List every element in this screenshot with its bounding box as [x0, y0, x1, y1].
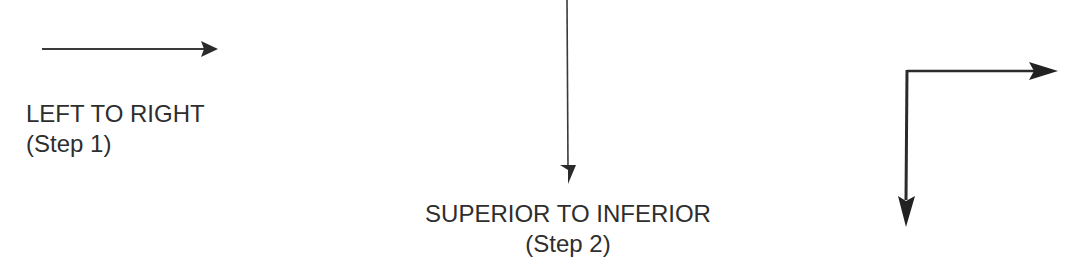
- step-2-title: SUPERIOR TO INFERIOR: [368, 199, 768, 229]
- step-1-title: LEFT TO RIGHT: [26, 99, 205, 129]
- step-1-subtitle: (Step 1): [26, 129, 205, 159]
- right-and-down-arrow-icon: [898, 62, 1058, 227]
- step-1-label: LEFT TO RIGHT (Step 1): [26, 99, 205, 159]
- down-arrow-icon: [560, 0, 576, 184]
- right-arrow-icon: [42, 41, 218, 57]
- step-2-label: SUPERIOR TO INFERIOR (Step 2): [368, 199, 768, 259]
- diagram-canvas: LEFT TO RIGHT (Step 1) SUPERIOR TO INFER…: [0, 0, 1077, 280]
- step-2-subtitle: (Step 2): [368, 229, 768, 259]
